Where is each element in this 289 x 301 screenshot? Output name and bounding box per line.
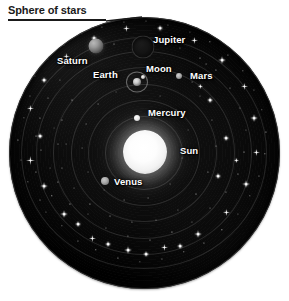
star-dot <box>216 146 217 147</box>
star-sparkle <box>40 182 48 190</box>
star-dot <box>253 89 254 90</box>
star-dot <box>81 33 82 34</box>
mars-body[interactable] <box>176 73 182 79</box>
star-dot <box>124 200 125 201</box>
star-sparkle-core <box>221 59 223 61</box>
star-dot <box>127 235 128 236</box>
jupiter-body[interactable] <box>132 36 155 59</box>
title-underline <box>8 19 106 21</box>
star-dot <box>148 198 149 199</box>
star-sparkle-core <box>39 135 41 137</box>
star-dot <box>89 203 90 204</box>
star-sparkle-core <box>163 246 165 248</box>
star-dot <box>51 195 52 196</box>
celestial-sphere-diagram: Sphere of stars SaturnJupiterEarthMoonMa… <box>0 0 289 301</box>
star-dot <box>177 209 178 210</box>
star-dot <box>221 229 222 230</box>
star-sparkle <box>191 37 198 44</box>
star-dot <box>88 172 89 173</box>
star-dot <box>21 160 22 161</box>
star-sparkle <box>143 251 149 257</box>
star-dot <box>196 194 197 195</box>
star-dot <box>245 129 246 130</box>
star-sparkle-core <box>29 107 31 109</box>
star-dot <box>200 96 201 97</box>
star-dot <box>17 139 18 140</box>
star-dot <box>227 54 228 55</box>
star-dot <box>239 107 240 108</box>
star-sparkle-core <box>199 85 201 87</box>
star-sparkle <box>89 235 96 242</box>
star-dot <box>35 171 36 172</box>
star-dot <box>110 216 111 217</box>
star-dot <box>191 221 192 222</box>
star-dot <box>242 70 243 71</box>
star-sparkle-core <box>243 85 245 87</box>
star-dot <box>61 119 62 120</box>
star-dot <box>237 173 238 174</box>
star-sparkle <box>234 158 239 163</box>
star-dot <box>98 104 99 105</box>
star-dot <box>261 109 262 110</box>
star-dot <box>88 214 89 215</box>
star-dot <box>150 240 151 241</box>
star-dot <box>265 131 266 132</box>
venus-body[interactable] <box>101 177 109 185</box>
star-sparkle <box>26 156 35 165</box>
star-dot <box>61 167 62 168</box>
star-dot <box>77 240 78 241</box>
star-sparkle-core <box>217 175 219 177</box>
star-sparkle-core <box>65 55 67 57</box>
star-sparkle <box>218 56 226 64</box>
star-sparkle <box>223 209 230 216</box>
star-dot <box>50 168 51 169</box>
star-dot <box>170 184 171 185</box>
star-dot <box>48 98 49 99</box>
star-dot <box>215 69 216 70</box>
star-sparkle <box>63 53 70 60</box>
star-dot <box>244 152 245 153</box>
star-dot <box>188 130 189 131</box>
star-sparkle <box>37 133 43 139</box>
star-dot <box>104 190 105 191</box>
star-dot <box>95 249 96 250</box>
star-dot <box>105 227 106 228</box>
star-dot <box>82 148 83 149</box>
star-sparkle <box>194 230 202 238</box>
saturn-body[interactable] <box>89 39 104 54</box>
star-dot <box>40 200 41 201</box>
star-sparkle <box>105 241 111 247</box>
star-dot <box>66 144 67 145</box>
star-sparkle <box>241 83 248 90</box>
star-dot <box>160 96 161 97</box>
star-dot <box>27 181 28 182</box>
earth-body[interactable] <box>133 78 141 86</box>
moon-body[interactable] <box>141 75 145 79</box>
star-dot <box>183 251 184 252</box>
star-dot <box>116 92 117 93</box>
star-dot <box>23 117 24 118</box>
star-dot <box>156 220 157 221</box>
star-dot <box>64 45 65 46</box>
star-sparkle-core <box>225 137 227 139</box>
star-dot <box>171 231 172 232</box>
star-sparkle-core <box>107 243 109 245</box>
star-dot <box>76 64 77 65</box>
star-dot <box>249 195 250 196</box>
star-sparkle-core <box>63 213 65 215</box>
sun-body[interactable] <box>123 130 167 174</box>
star-dot <box>230 88 231 89</box>
star-dot <box>200 58 201 59</box>
star-dot <box>211 119 212 120</box>
star-sparkle-core <box>145 253 147 255</box>
star-sparkle-core <box>43 79 45 81</box>
star-dot <box>61 225 62 226</box>
star-dot <box>182 158 183 159</box>
star-dot <box>101 26 102 27</box>
star-dot <box>203 242 204 243</box>
star-dot <box>161 258 162 259</box>
star-sparkle-core <box>235 159 237 161</box>
star-dot <box>54 128 55 129</box>
mercury-body[interactable] <box>134 115 140 121</box>
star-dot <box>36 136 37 137</box>
